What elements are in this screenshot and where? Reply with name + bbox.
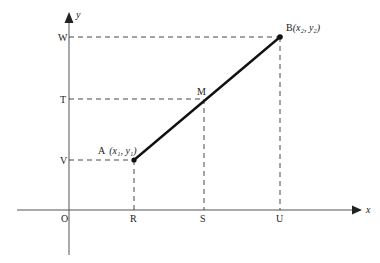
x-tick-u: U xyxy=(276,213,284,224)
point-a-marker xyxy=(131,157,136,162)
y-tick-v: V xyxy=(60,155,68,166)
origin-label: O xyxy=(61,213,68,224)
y-axis-arrow-icon xyxy=(65,12,74,23)
x-tick-r: R xyxy=(130,213,137,224)
y-tick-w: W xyxy=(58,32,68,43)
point-b-label: B(x₂, y₂) xyxy=(286,22,321,34)
x-axis-label: x xyxy=(365,204,371,215)
point-b-marker xyxy=(277,34,283,40)
x-tick-s: S xyxy=(200,213,206,224)
y-tick-t: T xyxy=(60,94,66,105)
point-m-label: M xyxy=(197,86,206,97)
x-axis-arrow-icon xyxy=(352,206,362,215)
point-a-label: A (x₁, y₁) xyxy=(98,145,137,157)
y-axis-label: y xyxy=(75,9,81,20)
segment-ab xyxy=(134,37,280,160)
coordinate-diagram: x y O W T V R S U A (x₁, y₁) B(x₂, y₂) M xyxy=(0,0,380,263)
